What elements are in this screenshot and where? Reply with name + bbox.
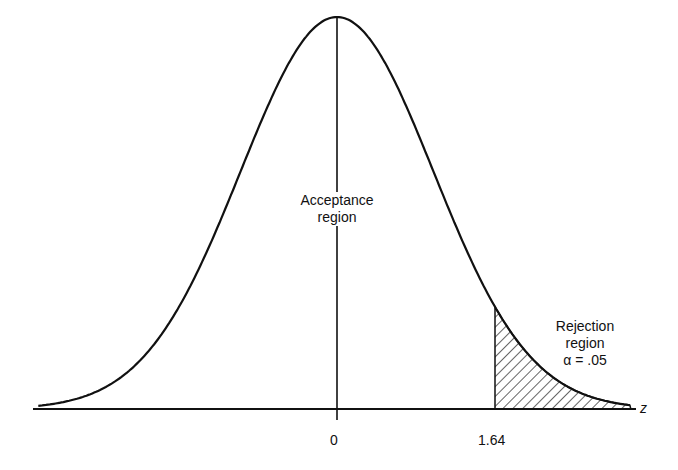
tick-label-critical: 1.64 [478,432,505,449]
tick-label-zero: 0 [330,432,338,449]
rejection-line2: region [540,335,630,352]
acceptance-line2: region [277,209,397,226]
alpha-label: α = .05 [540,352,630,369]
axis-label-z: z [640,400,647,417]
rejection-region-label: Rejection region α = .05 [540,318,630,369]
rejection-line1: Rejection [540,318,630,335]
acceptance-line1: Acceptance [277,192,397,209]
normal-curve-chart [0,0,678,470]
acceptance-region-label: Acceptance region [277,192,397,226]
